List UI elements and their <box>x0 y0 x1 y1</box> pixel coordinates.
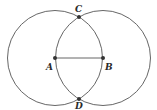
label-c: C <box>75 4 83 14</box>
geometry-diagram: A B C D <box>0 0 157 110</box>
label-a: A <box>45 62 53 72</box>
point-a <box>53 56 57 60</box>
label-d: D <box>74 101 83 110</box>
point-c <box>77 15 81 19</box>
diagram-canvas: A B C D <box>0 0 157 110</box>
point-b <box>101 56 105 60</box>
label-b: B <box>104 62 113 72</box>
